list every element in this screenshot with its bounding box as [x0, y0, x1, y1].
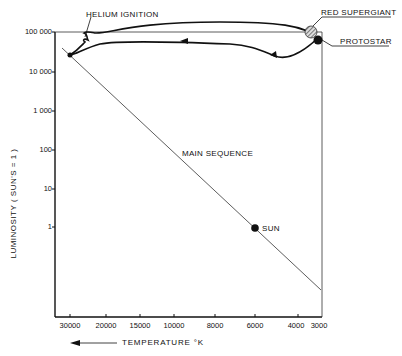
- x-axis-label: TEMPERATURE °K: [122, 338, 204, 347]
- protostar-marker: [314, 36, 323, 45]
- y-tick-label: 1 000: [8, 106, 52, 115]
- x-tick-label: 6000: [235, 321, 275, 330]
- evolution-track: [70, 22, 318, 57]
- sun-label: SUN: [262, 224, 280, 233]
- y-tick-label: 10 000: [8, 67, 52, 76]
- main-sequence-line: [62, 48, 321, 290]
- hr-diagram: 100 000 10 000 1 000 100 10 1 30000 2000…: [0, 0, 402, 356]
- y-axis-label: LUMINOSITY ( SUN'S = 1 ): [9, 139, 18, 269]
- y-tick-label: 100 000: [8, 27, 52, 36]
- x-tick-label: 10000: [154, 321, 194, 330]
- x-tick-label: 3000: [299, 321, 339, 330]
- diagram-canvas: [0, 0, 402, 356]
- red-supergiant-marker: [305, 26, 317, 38]
- x-tick-label: 8000: [195, 321, 235, 330]
- red-supergiant-label: RED SUPERGIANT: [321, 8, 396, 17]
- sun-marker: [251, 224, 259, 232]
- helium-ignition-label: HELIUM IGNITION: [86, 10, 159, 19]
- x-tick-label: 30000: [50, 321, 90, 330]
- protostar-label: PROTOSTAR: [340, 37, 392, 46]
- main-sequence-label: MAIN SEQUENCE: [182, 149, 253, 158]
